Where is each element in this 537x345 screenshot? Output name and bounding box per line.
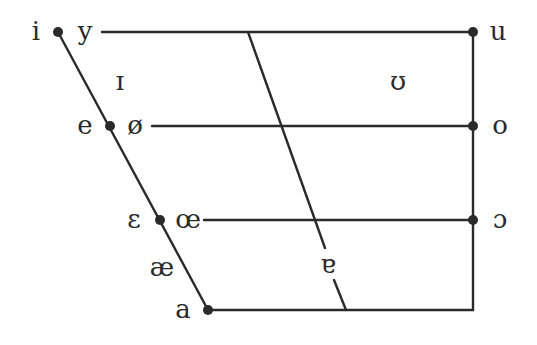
vowel-a: a — [175, 296, 191, 322]
dot-i — [53, 27, 63, 37]
dot-a — [203, 305, 213, 315]
vowel-small-i: ɪ — [116, 68, 124, 94]
vowel-epsilon: ɛ — [127, 206, 140, 232]
vowel-oe: œ — [175, 206, 201, 232]
central-line-upper — [248, 32, 325, 248]
vowel-chart-lines — [0, 0, 537, 345]
vowel-open-o: ɔ — [493, 206, 508, 232]
dot-e — [105, 121, 115, 131]
vowel-ae: æ — [150, 254, 174, 280]
dot-open-o — [468, 215, 478, 225]
vowel-i: i — [32, 18, 40, 44]
vowel-e: e — [77, 112, 92, 138]
dot-o — [468, 121, 478, 131]
dot-epsilon — [155, 215, 165, 225]
vowel-upsilon: ʊ — [390, 68, 406, 94]
vowel-o-slash: ø — [127, 112, 143, 138]
dot-u — [468, 27, 478, 37]
central-line-lower — [334, 280, 346, 310]
vowel-y: y — [78, 18, 93, 44]
front-diagonal-line — [58, 32, 208, 310]
vowel-u: u — [490, 18, 507, 44]
vowel-o: o — [492, 112, 508, 138]
vowel-turned-a: ɐ — [320, 251, 336, 277]
